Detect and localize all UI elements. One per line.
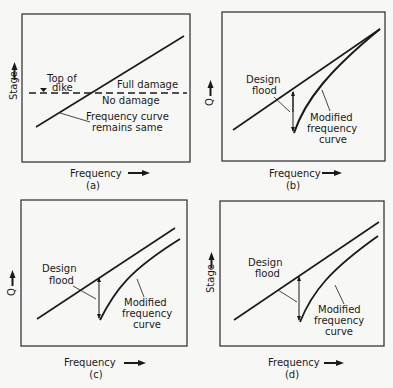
y-axis-label: Stage: [205, 264, 216, 293]
modified-label-2: frequency: [122, 308, 172, 319]
design-flood-label-1: Design: [42, 263, 77, 274]
x-axis-label: Frequency: [268, 357, 320, 368]
flood-frequency-figure: Top of dike Full damage No damage Freque…: [0, 0, 393, 388]
design-flood-label-2: flood: [49, 275, 74, 286]
modified-label-1: Modified: [310, 112, 353, 123]
leader-line: [137, 279, 144, 297]
x-axis-label: Frequency: [269, 168, 321, 179]
design-flood-label-1: Design: [246, 74, 281, 85]
panel-caption: (a): [86, 180, 100, 191]
modified-label-1: Modified: [124, 297, 167, 308]
panel-c: Design flood Modified frequency curve Q …: [6, 200, 187, 380]
panel-caption: (c): [89, 369, 102, 380]
modified-label-1: Modified: [318, 304, 361, 315]
y-axis-label: Q: [6, 288, 17, 296]
design-flood-label-2: flood: [252, 85, 277, 96]
panel-caption: (b): [286, 180, 300, 191]
x-axis-arrow-icon: [128, 170, 150, 176]
leader-line: [274, 97, 290, 112]
modified-label-2: frequency: [314, 315, 364, 326]
design-flood-label-1: Design: [248, 257, 283, 268]
leader-line: [335, 285, 344, 304]
plot-frame: [222, 12, 385, 161]
x-axis-arrow-icon: [322, 170, 342, 176]
x-axis-label: Frequency: [64, 357, 116, 368]
water-level-icon: [40, 88, 47, 92]
leader-line: [322, 90, 330, 111]
x-axis-arrow-icon: [324, 360, 344, 366]
panel-b: Design flood Modified frequency curve Q …: [204, 12, 385, 191]
full-damage-label: Full damage: [117, 79, 178, 90]
modified-label-2: frequency: [307, 123, 357, 134]
modified-label-3: curve: [319, 134, 347, 145]
dike-label: dike: [52, 82, 73, 93]
panel-a: Top of dike Full damage No damage Freque…: [8, 14, 190, 191]
x-axis-arrow-icon: [124, 360, 146, 366]
modified-label-3: curve: [325, 326, 353, 337]
panel-caption: (d): [285, 369, 299, 380]
curve-note-label-2: remains same: [92, 122, 163, 133]
no-damage-label: No damage: [102, 95, 160, 106]
leader-line: [278, 290, 297, 302]
modified-label-3: curve: [133, 319, 161, 330]
design-flood-label-2: flood: [255, 268, 280, 279]
panel-d: Design flood Modified frequency curve St…: [205, 201, 384, 380]
y-axis-arrow-icon: [10, 270, 16, 286]
y-axis-arrow-icon: [208, 80, 214, 96]
x-axis-label: Frequency: [70, 168, 122, 179]
curve-note-label-1: Frequency curve: [86, 111, 169, 122]
y-axis-label: Q: [204, 98, 215, 106]
